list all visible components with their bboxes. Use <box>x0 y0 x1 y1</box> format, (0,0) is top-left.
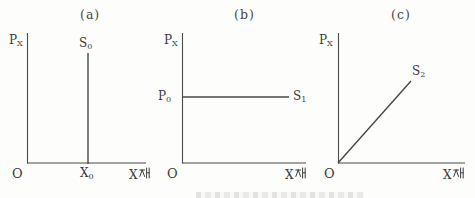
panel-b-y-axis-sub: X <box>172 39 178 48</box>
panel-b-curve-letter: S <box>293 89 301 103</box>
panel-b-price-level-sub: 0 <box>166 95 171 104</box>
panel-c-axes <box>338 33 465 164</box>
panel-c-x-axis-label: X <box>443 167 464 182</box>
panel-a-x-intercept-sub: 0 <box>89 172 94 181</box>
panel-a-axes <box>27 33 146 164</box>
panel-a-curve-label: S0 <box>79 37 92 51</box>
panel-a-y-axis-label: PX <box>9 34 23 48</box>
hangul-jae-glyph <box>295 167 306 179</box>
panel-a-origin-label: O <box>12 167 23 181</box>
panel-a-x-axis-letter: X <box>129 169 138 182</box>
panel-b-price-level-label: P0 <box>158 90 171 104</box>
panel-c-y-axis-label: PX <box>319 34 333 48</box>
supply-curve-figure: (a) PX S0 O X0 X (b) PX P0 S1 O X (c) PX… <box>0 0 475 198</box>
panel-b-x-axis-letter: X <box>285 169 294 182</box>
panel-b-y-axis-letter: P <box>164 33 172 47</box>
hangul-jae-glyph <box>139 167 150 179</box>
panel-b-origin-label: O <box>167 167 178 181</box>
panel-a-y-axis-letter: P <box>9 33 17 47</box>
panel-c-curve-letter: S <box>412 64 420 78</box>
panel-b-axes <box>182 33 306 164</box>
panel-c-curve-label: S2 <box>412 65 425 79</box>
hangul-jae-glyph <box>453 167 464 179</box>
panel-c-curve-sub: 2 <box>420 70 425 79</box>
panel-a-curve-sub: 0 <box>87 42 92 51</box>
panel-a-x-intercept-letter: X <box>80 166 89 180</box>
panel-a-curve-letter: S <box>79 36 87 50</box>
panel-a-y-axis-sub: X <box>17 39 23 48</box>
plot-lines-layer <box>0 0 475 198</box>
panel-b-curve-sub: 1 <box>301 95 306 104</box>
panel-c-caption: (c) <box>391 8 411 22</box>
cut-off-caption-remnant <box>196 192 364 198</box>
panel-b-caption: (b) <box>234 8 255 22</box>
panel-b-curve-label: S1 <box>293 90 306 104</box>
panel-a-caption: (a) <box>80 8 100 22</box>
panel-c-y-axis-letter: P <box>319 33 327 47</box>
panel-c-x-axis-letter: X <box>443 169 452 182</box>
panel-a-x-intercept-label: X0 <box>80 167 94 181</box>
panel-b-price-level-letter: P <box>158 89 166 103</box>
panel-c-y-axis-sub: X <box>327 39 333 48</box>
panel-c-origin-label: O <box>324 167 335 181</box>
panel-b-x-axis-label: X <box>285 167 306 182</box>
panel-b-y-axis-label: PX <box>164 34 178 48</box>
panel-c-supply-curve-diagonal <box>338 81 411 163</box>
panel-a-x-axis-label: X <box>129 167 150 182</box>
